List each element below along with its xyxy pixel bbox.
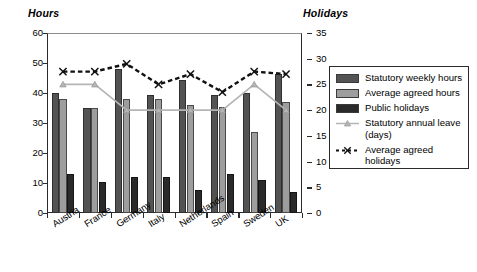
legend-item: Public holidays: [336, 102, 463, 114]
right-tick-mark: [307, 33, 312, 34]
right-tick-mark: [307, 110, 312, 111]
left-tick-label: 10: [32, 178, 43, 188]
legend-label: Average agreed holidays: [365, 144, 463, 167]
x-tick-mark: [175, 213, 176, 218]
legend-label: Statutory annual leave (days): [365, 117, 463, 140]
line-series: [63, 84, 286, 110]
line-marker-triangle: [251, 81, 257, 87]
right-tick-label: 30: [316, 54, 327, 64]
legend-label: Public holidays: [365, 102, 429, 114]
x-tick-mark: [302, 213, 303, 218]
right-tick-mark: [307, 162, 312, 163]
legend-item: Statutory annual leave (days): [336, 117, 463, 140]
right-tick-label: 15: [316, 131, 327, 141]
right-tick-label: 10: [316, 157, 327, 167]
left-axis-ticks: 0102030405060: [17, 33, 43, 213]
left-axis-title: Hours: [28, 7, 59, 19]
chart-legend: Statutory weekly hoursAverage agreed hou…: [329, 66, 469, 169]
right-tick-label: 35: [316, 28, 327, 38]
right-tick-mark: [307, 187, 312, 188]
chart-container: Hours Holidays 0102030405060 05101520253…: [0, 0, 477, 272]
legend-item: Average agreed holidays: [336, 144, 463, 167]
x-axis-label: Italy: [146, 211, 167, 230]
line-marker-x: [219, 89, 226, 96]
legend-line-sample: [336, 118, 359, 129]
right-tick-mark: [307, 136, 312, 137]
right-tick-mark: [307, 213, 312, 214]
legend-label: Average agreed hours: [365, 87, 460, 99]
right-tick-label: 20: [316, 105, 327, 115]
line-marker-x: [155, 81, 162, 88]
legend-swatch: [336, 104, 359, 113]
x-axis-label: UK: [273, 213, 290, 229]
right-tick-label: 25: [316, 80, 327, 90]
right-tick-label: 5: [316, 183, 321, 193]
left-tick-label: 60: [32, 28, 43, 38]
lines-layer: [47, 33, 302, 213]
left-tick-label: 40: [32, 88, 43, 98]
left-tick-label: 30: [32, 118, 43, 128]
x-tick-mark: [47, 213, 48, 218]
legend-label: Statutory weekly hours: [365, 72, 462, 84]
left-tick-label: 20: [32, 148, 43, 158]
plot-area: [47, 33, 302, 213]
right-tick-mark: [307, 84, 312, 85]
line-marker-x: [187, 71, 194, 78]
right-tick-mark: [307, 59, 312, 60]
right-tick-label: 0: [316, 208, 321, 218]
legend-swatch: [336, 89, 359, 98]
line-series: [63, 64, 286, 92]
legend-swatch: [336, 74, 359, 83]
x-tick-mark: [238, 213, 239, 218]
right-axis-title: Holidays: [303, 7, 348, 19]
legend-item: Statutory weekly hours: [336, 72, 463, 84]
legend-item: Average agreed hours: [336, 87, 463, 99]
left-tick-label: 50: [32, 58, 43, 68]
legend-line-sample: [336, 145, 359, 156]
